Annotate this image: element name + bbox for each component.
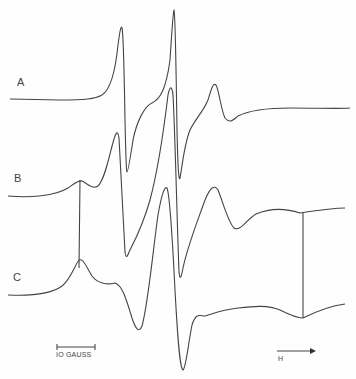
trace-label-c: C [13,271,21,283]
spectrum-plot [0,0,356,379]
trace-a [10,10,350,179]
scale-bar [57,344,95,350]
field-axis-label: H [278,355,283,362]
epr-spectrum-figure: A B C IO GAUSS H [0,0,356,379]
trace-label-a: A [17,76,24,88]
marker-line-low-field [79,180,80,268]
trace-c [8,188,345,370]
scale-bar-label: IO GAUSS [56,351,91,358]
trace-label-b: B [14,172,21,184]
arrow-head-icon [310,348,316,354]
